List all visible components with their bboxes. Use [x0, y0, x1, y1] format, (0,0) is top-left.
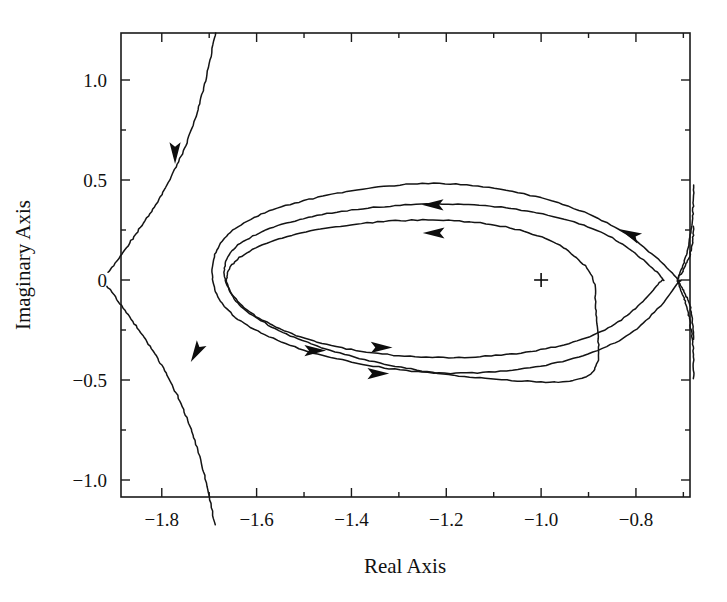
arrowhead-arrow-inner-loop-top: [423, 227, 445, 238]
arrowhead-arrow-outer-loop-bottom: [304, 345, 326, 356]
x-tick-label: −1.6: [239, 509, 273, 530]
y-tick-labels: 1.00.50−0.5−1.0: [73, 70, 107, 491]
root-locus-figure: −1.8−1.6−1.4−1.2−1.0−0.8 1.00.50−0.5−1.0…: [0, 0, 727, 602]
x-axis-title: Real Axis: [364, 554, 446, 578]
marker-open-loop-pole-or-zero: [534, 273, 548, 287]
arrowhead-arrow-lower-left-branch: [186, 340, 207, 364]
y-tick-label: 0: [98, 270, 108, 291]
y-axis-title: Imaginary Axis: [11, 200, 35, 330]
y-tick-label: 0.5: [83, 170, 107, 191]
arrowhead-arrow-middle-loop-top: [422, 199, 444, 210]
locus-curve-outer-loop: [212, 183, 681, 374]
direction-arrows: [169, 142, 642, 379]
plot-canvas: −1.8−1.6−1.4−1.2−1.0−0.8 1.00.50−0.5−1.0…: [0, 0, 727, 602]
arrowhead-arrow-middle-loop-bottom: [371, 342, 393, 353]
x-tick-label: −0.8: [619, 509, 653, 530]
locus-curve-upper-left-asymptote-branch: [108, 33, 216, 272]
x-tick-label: −1.8: [145, 509, 179, 530]
x-tick-label: −1.4: [334, 509, 369, 530]
x-tick-labels: −1.8−1.6−1.4−1.2−1.0−0.8: [145, 509, 654, 530]
locus-curve-inner-loop: [226, 220, 599, 383]
arrowhead-arrow-outer-loop-right-upper: [618, 224, 642, 243]
locus-curves: [107, 33, 694, 525]
pole-zero-markers: [534, 273, 548, 287]
x-tick-label: −1.2: [429, 509, 463, 530]
axis-ticks: [121, 33, 690, 497]
y-tick-label: 1.0: [83, 70, 107, 91]
x-tick-label: −1.0: [524, 509, 558, 530]
plot-frame: [121, 33, 690, 497]
y-tick-label: −1.0: [73, 470, 107, 491]
y-tick-label: −0.5: [73, 370, 107, 391]
arrowhead-arrow-inner-loop-bottom: [367, 368, 389, 379]
